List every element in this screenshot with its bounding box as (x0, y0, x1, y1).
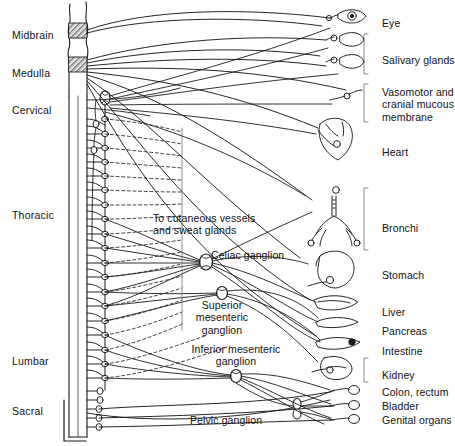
organ-label-genital-organs: Genital organs (382, 414, 452, 426)
genital-organs-icon (330, 415, 360, 424)
intestine-icon (316, 338, 360, 350)
inner-label-inferior-mesenteric: Inferior mesenteric ganglion (165, 343, 307, 368)
inner-label-superior-mesenteric: Superior mesenteric ganglion (181, 299, 263, 336)
organ-label-intestine: Intestine (382, 345, 423, 357)
organ-label-pancreas: Pancreas (382, 325, 427, 337)
organ-label-bladder: Bladder (382, 400, 419, 412)
kidney-icon (312, 356, 352, 379)
heart-icon (318, 118, 352, 160)
organ-label-stomach: Stomach (382, 269, 424, 281)
organ-label-bronchi: Bronchi (382, 222, 418, 234)
inner-label-celiac-ganglion: Celiac ganglion (211, 249, 284, 261)
organ-label-liver: Liver (382, 306, 405, 318)
spine-label-thoracic: Thoracic (12, 209, 54, 221)
bronchi-icon (308, 187, 360, 246)
organ-label-vasomotor: Vasomotor and cranial mucous membrane (382, 86, 454, 123)
salivary-glands-icon (326, 33, 364, 69)
pancreas-icon (316, 318, 358, 328)
medulla-nucleus (69, 57, 87, 72)
organ-label-colon-rectum: Colon, rectum (382, 386, 449, 398)
spine-label-lumbar: Lumbar (12, 355, 49, 367)
spine-label-cervical: Cervical (12, 104, 52, 116)
organ-label-kidney: Kidney (382, 369, 415, 381)
spine-label-midbrain: Midbrain (12, 29, 54, 41)
eye-icon (326, 10, 366, 23)
vasomotor-icon (330, 90, 362, 100)
inner-label-cutaneous: To cutaneous vessels and sweat glands (153, 212, 255, 237)
corner-frame-mark (64, 400, 86, 441)
midbrain-nucleus (69, 23, 87, 38)
spinal-segment-roots (87, 119, 105, 427)
organ-label-heart: Heart (382, 146, 408, 158)
spine-label-sacral: Sacral (12, 405, 43, 417)
colon-rectum-icon (330, 386, 360, 395)
bladder-icon (330, 401, 360, 410)
inner-label-pelvic-ganglion: Pelvic ganglion (190, 414, 262, 426)
spine-label-medulla: Medulla (12, 67, 50, 79)
inferior-mesenteric-ganglion-node (231, 370, 242, 383)
label-brackets (364, 34, 368, 382)
liver-icon (314, 296, 358, 310)
organ-label-eye: Eye (382, 17, 400, 29)
superior-mesenteric-ganglion-node (217, 287, 228, 300)
organ-label-salivary-glands: Salivary glands (382, 54, 455, 66)
stomach-icon (308, 251, 354, 288)
